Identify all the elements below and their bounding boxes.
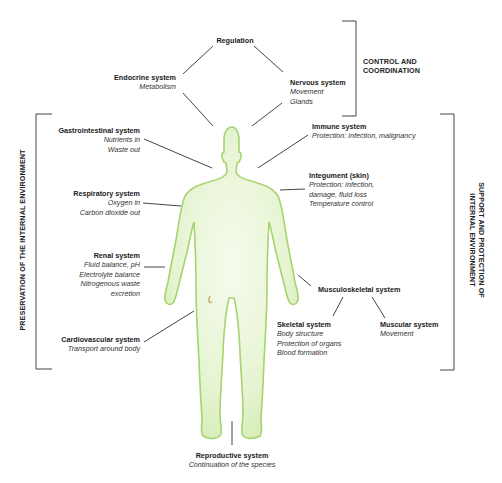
immune-system-label: Immune system Protection: infection, mal… <box>312 122 442 141</box>
regulation-label: Regulation <box>205 36 265 45</box>
connector-gastrointestinal <box>144 139 212 168</box>
diagram-graphics <box>0 0 502 483</box>
renal-system-label: Renal system Fluid balance, pH Electroly… <box>40 251 140 298</box>
connector-immune <box>258 135 308 168</box>
human-body-figure <box>165 127 299 438</box>
endocrine-system-label: Endocrine system Metabolism <box>96 73 176 92</box>
musculoskeletal-system-label: Musculoskeletal system <box>318 285 428 294</box>
connector-endocrine-body <box>183 93 213 126</box>
connector-respiratory <box>143 203 181 206</box>
gastrointestinal-system-label: Gastrointestinal system Nutrients in Was… <box>40 126 140 154</box>
integument-skin-label: Integument (skin) Protection: infection,… <box>309 171 409 209</box>
connector-musculoskeletal <box>298 275 311 286</box>
connector-nervous-body <box>252 103 282 126</box>
preservation-internal-environment-caption: PRESERVATION OF THE INTERNAL ENVIRONMENT <box>18 149 27 330</box>
control-coordination-caption: CONTROL AND COORDINATION <box>363 57 420 75</box>
connector-endocrine-regulation <box>183 46 213 74</box>
connector-muscular <box>372 297 385 318</box>
nervous-system-label: Nervous system Movement Glands <box>290 78 370 106</box>
connector-skeletal <box>333 297 343 316</box>
muscular-system-label: Muscular system Movement <box>380 320 460 339</box>
reproductive-system-label: Reproductive system Continuation of the … <box>172 451 292 470</box>
connector-cardiovascular <box>144 311 194 342</box>
connector-integument <box>280 189 305 190</box>
skeletal-system-label: Skeletal system Body structure Protectio… <box>277 320 367 358</box>
connector-regulation-nervous <box>254 46 283 72</box>
respiratory-system-label: Respiratory system Oxygen in Carbon diox… <box>40 189 140 217</box>
cardiovascular-system-label: Cardiovascular system Transport around b… <box>40 335 140 354</box>
support-protection-caption: SUPPORT AND PROTECTION OF INTERNAL ENVIR… <box>468 182 486 298</box>
